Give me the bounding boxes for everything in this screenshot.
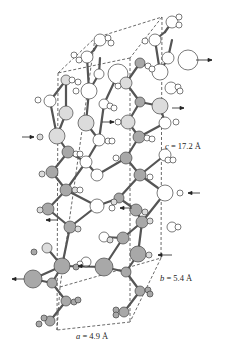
- atom: [64, 221, 76, 233]
- arrowhead-icon: [46, 218, 50, 221]
- atom: [142, 209, 148, 215]
- atom: [130, 204, 142, 216]
- atom: [69, 77, 75, 83]
- c-axis-label: c = 17.2 Å: [165, 141, 201, 151]
- atom: [177, 88, 183, 94]
- atom: [157, 185, 173, 201]
- atom: [75, 297, 81, 303]
- atom: [147, 174, 153, 180]
- atom: [81, 83, 97, 99]
- atom: [62, 146, 74, 158]
- atom: [109, 205, 115, 211]
- atom: [81, 51, 93, 63]
- atom: [47, 278, 57, 288]
- atom: [93, 134, 105, 146]
- crystal-structure-diagram: [0, 0, 228, 357]
- atom: [75, 79, 81, 85]
- atom: [120, 77, 132, 89]
- atom: [73, 264, 79, 270]
- atom: [80, 156, 92, 168]
- atom: [24, 270, 42, 288]
- atom: [31, 249, 37, 255]
- cell-edge: [161, 17, 162, 258]
- atom: [39, 171, 45, 177]
- atom: [59, 106, 73, 120]
- atom: [134, 169, 146, 181]
- atom: [42, 203, 54, 215]
- atom: [176, 22, 182, 28]
- atom: [108, 40, 114, 46]
- a-axis-value: = 4.9 Å: [80, 331, 108, 341]
- arrowhead-icon: [30, 135, 34, 138]
- atom: [111, 105, 117, 111]
- atom: [120, 152, 132, 164]
- atom: [173, 119, 179, 125]
- atom: [176, 14, 182, 20]
- atom: [149, 34, 161, 46]
- atom: [37, 134, 43, 140]
- atom: [37, 207, 43, 213]
- atom: [44, 95, 56, 107]
- atom: [170, 157, 176, 163]
- atom: [90, 199, 104, 213]
- b-axis-value: = 5.4 Å: [164, 273, 192, 283]
- atom: [135, 97, 145, 107]
- atom: [75, 226, 81, 232]
- atom: [135, 58, 145, 68]
- atom: [71, 52, 77, 58]
- atom: [36, 321, 42, 327]
- atom: [54, 258, 70, 274]
- arrowhead-icon: [208, 58, 212, 61]
- atom: [149, 136, 155, 142]
- atom: [121, 267, 131, 277]
- atom: [94, 69, 104, 79]
- atom: [152, 64, 168, 80]
- arrowhead-icon: [120, 206, 124, 209]
- atom: [111, 199, 117, 205]
- b-axis-label: b = 5.4 Å: [160, 273, 192, 283]
- atom: [35, 97, 41, 103]
- atom: [49, 128, 65, 144]
- atom: [115, 83, 121, 89]
- atom: [175, 224, 181, 230]
- atom: [149, 66, 155, 72]
- atom: [42, 243, 52, 253]
- arrowhead-icon: [110, 120, 114, 123]
- atom: [91, 169, 103, 181]
- atom: [77, 151, 83, 157]
- c-axis-value: = 17.2 Å: [169, 141, 201, 151]
- atom: [135, 286, 145, 296]
- atom: [159, 117, 171, 129]
- atom: [146, 252, 152, 258]
- atom: [162, 52, 174, 64]
- arrowhead-icon: [158, 253, 162, 256]
- atom: [152, 98, 168, 114]
- atom: [177, 190, 183, 196]
- atom: [142, 38, 148, 44]
- atom: [61, 296, 71, 306]
- cell-edge: [57, 322, 130, 330]
- atom: [76, 57, 82, 63]
- atom: [115, 119, 121, 125]
- atom: [133, 131, 145, 143]
- atom: [41, 315, 47, 321]
- atom: [147, 218, 153, 224]
- atom: [113, 155, 119, 161]
- atom: [130, 246, 146, 262]
- arrowhead-icon: [188, 191, 192, 194]
- atom: [117, 232, 129, 244]
- atom: [113, 312, 119, 318]
- a-axis-label: a = 4.9 Å: [76, 331, 108, 341]
- atom: [60, 184, 72, 196]
- atom: [147, 291, 153, 297]
- atom: [107, 237, 113, 243]
- atom: [46, 166, 58, 178]
- atom: [78, 115, 94, 131]
- atom: [95, 258, 113, 276]
- arrowhead-icon: [180, 106, 184, 109]
- atom: [121, 115, 135, 129]
- atom: [178, 50, 198, 70]
- atom: [94, 34, 106, 46]
- arrowhead-icon: [12, 277, 16, 280]
- atom: [119, 307, 129, 317]
